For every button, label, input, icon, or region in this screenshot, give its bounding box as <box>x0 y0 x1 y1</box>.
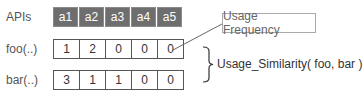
usage-frequency-callout: Usage Frequency <box>222 13 316 33</box>
brace-icon <box>203 47 213 82</box>
usage-similarity-label: Usage_Similarity( foo, bar ) <box>217 57 362 71</box>
callout-pointer-line <box>173 24 222 50</box>
